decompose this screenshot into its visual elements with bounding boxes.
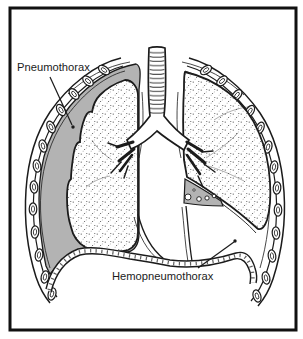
figure-page: Pneumothorax Hemopneumothorax — [0, 0, 303, 339]
air-bubble — [193, 189, 195, 191]
rib — [30, 180, 39, 193]
rib — [274, 204, 282, 216]
air-bubble — [185, 194, 191, 200]
air-bubble — [205, 196, 209, 200]
thorax-illustration: Pneumothorax Hemopneumothorax — [0, 0, 303, 339]
pneumothorax-leader-dot — [71, 125, 74, 128]
hemopneumothorax-leader-dot — [233, 239, 236, 242]
rib — [31, 226, 39, 239]
rib — [273, 181, 282, 194]
hemopneumothorax-label: Hemopneumothorax — [112, 270, 214, 282]
trachea-rings — [150, 50, 165, 114]
rib — [272, 227, 280, 240]
pneumothorax-label: Pneumothorax — [17, 61, 90, 73]
air-bubble — [212, 194, 216, 198]
rib — [29, 203, 37, 215]
air-bubble — [197, 197, 202, 202]
